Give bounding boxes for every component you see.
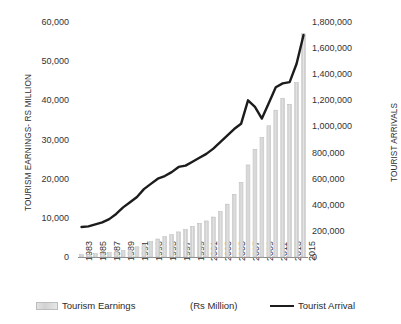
legend-item-tourism-earnings: Tourism Earnings xyxy=(36,300,135,311)
bar xyxy=(87,254,91,257)
bar xyxy=(267,126,271,257)
bar xyxy=(170,235,174,257)
y-axis-right-tick-label: 400,000 xyxy=(312,200,368,210)
bar xyxy=(100,253,104,257)
y-axis-left-tick-label: 30,000 xyxy=(17,135,69,145)
bar xyxy=(128,250,132,257)
tourism-chart: TOURISM EARNINGS- RS MILLION TOURIST ARR… xyxy=(0,0,401,324)
y-axis-right-tick-label: 1,000,000 xyxy=(312,121,368,131)
bar xyxy=(260,138,264,257)
y-axis-right-tick-label: 800,000 xyxy=(312,148,368,158)
bar xyxy=(121,251,125,257)
chart-legend: Tourism Earnings (Rs Million) Tourist Ar… xyxy=(0,298,401,316)
bar xyxy=(177,232,181,257)
legend-unit-note: (Rs Million) xyxy=(190,300,238,311)
bar-swatch-icon xyxy=(36,302,58,310)
y-axis-right-tick-label: 1,200,000 xyxy=(312,95,368,105)
line-swatch-icon xyxy=(270,305,294,307)
bar xyxy=(80,255,84,257)
bar xyxy=(135,247,139,257)
bar xyxy=(107,253,111,257)
legend-item-tourist-arrival: Tourist Arrival xyxy=(270,300,355,311)
y-axis-left-tick-label: 60,000 xyxy=(17,17,69,27)
y-axis-left-tick-label: 20,000 xyxy=(17,174,69,184)
bar xyxy=(93,254,97,257)
bar xyxy=(281,98,285,257)
bar xyxy=(302,34,306,257)
bar xyxy=(288,104,292,257)
x-axis-tick-label: 2015 xyxy=(308,241,317,261)
bar xyxy=(114,252,118,257)
legend-unit-label: (Rs Million) xyxy=(190,300,238,311)
bar xyxy=(246,165,250,257)
bar xyxy=(191,226,195,257)
bar xyxy=(142,244,146,257)
y-axis-left-tick-label: 40,000 xyxy=(17,95,69,105)
y-axis-right-tick-label: 600,000 xyxy=(312,174,368,184)
bar xyxy=(232,194,236,257)
bar xyxy=(225,204,229,257)
bar xyxy=(204,221,208,257)
bar xyxy=(274,110,278,257)
bar xyxy=(149,242,153,257)
bar xyxy=(163,237,167,257)
bar xyxy=(211,217,215,257)
bar xyxy=(253,149,257,257)
legend-label-tourism-earnings: Tourism Earnings xyxy=(62,300,135,311)
bar xyxy=(156,239,160,257)
y-axis-right-tick-label: 1,400,000 xyxy=(312,69,368,79)
y-axis-right-tick-label: 1,800,000 xyxy=(312,17,368,27)
y-axis-right-tick-label: 0 xyxy=(312,252,368,262)
y-axis-right-tick-label: 200,000 xyxy=(312,226,368,236)
bar xyxy=(295,83,299,257)
legend-label-tourist-arrival: Tourist Arrival xyxy=(298,300,355,311)
y-axis-right-tick-label: 1,600,000 xyxy=(312,43,368,53)
bar xyxy=(184,230,188,257)
plot-area xyxy=(78,22,307,257)
y-axis-left-tick-label: 10,000 xyxy=(17,213,69,223)
bar xyxy=(218,212,222,257)
bar xyxy=(198,223,202,257)
bar xyxy=(239,183,243,257)
y-axis-right-title: TOURIST ARRIVALS xyxy=(390,58,399,228)
y-axis-left-tick-label: 0 xyxy=(17,252,69,262)
y-axis-left-tick-label: 50,000 xyxy=(17,56,69,66)
